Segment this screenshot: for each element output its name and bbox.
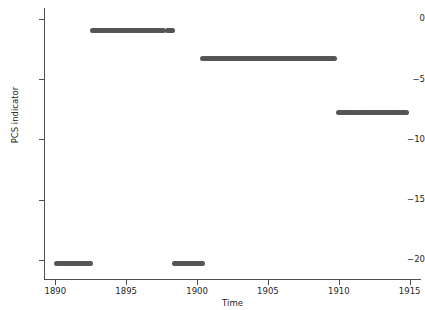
data-point (170, 28, 175, 33)
data-point (404, 110, 409, 115)
x-tick-label: 1910 (315, 287, 363, 296)
data-point (332, 56, 337, 61)
x-tick-label: 1915 (386, 287, 425, 296)
x-axis-label: Time (44, 298, 421, 308)
x-tick-label: 1905 (244, 287, 292, 296)
data-point (88, 261, 93, 266)
x-tick-mark (410, 280, 411, 285)
x-tick-mark (126, 280, 127, 285)
x-tick-mark (55, 280, 56, 285)
chart-figure: 0−5−10−15−20 189018951900190519101915 Ti… (0, 0, 425, 310)
x-tick-mark (197, 280, 198, 285)
x-tick-mark (268, 280, 269, 285)
x-axis-spine (44, 279, 421, 280)
x-tick-mark (339, 280, 340, 285)
data-point (200, 261, 205, 266)
x-tick-label: 1900 (173, 287, 221, 296)
x-tick-label: 1890 (31, 287, 79, 296)
plot-area (44, 8, 421, 279)
y-axis-label: PCS indicator (10, 45, 20, 185)
x-tick-label: 1895 (102, 287, 150, 296)
